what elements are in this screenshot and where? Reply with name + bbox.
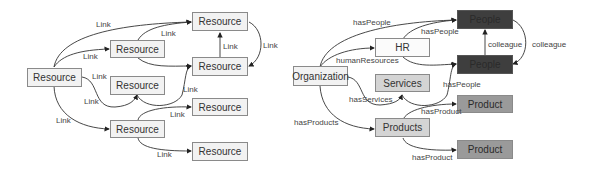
node-products[interactable]: Products — [375, 118, 430, 137]
node-services[interactable]: Services — [375, 74, 430, 92]
node-hr[interactable]: HR — [375, 38, 430, 57]
node-resource-rbr[interactable]: Resource — [192, 142, 248, 161]
edge-label-link: Link — [84, 97, 99, 106]
node-resource-rmr[interactable]: Resource — [192, 57, 248, 76]
edge-label-hasservices: hasServices — [349, 95, 393, 104]
node-organization[interactable]: Organization — [293, 66, 348, 86]
node-people-top[interactable]: People — [457, 10, 513, 29]
edge-label-link: Link — [83, 52, 98, 61]
edge-label-link: Link — [56, 116, 71, 125]
edge-label-humanresources: humanResources — [336, 56, 399, 65]
edge-label-hasproducts: hasProducts — [294, 118, 338, 127]
edge-r1-rmr — [138, 58, 191, 66]
edge-label-haspeople: hasPeople — [353, 18, 391, 27]
node-resource-rlr[interactable]: Resource — [192, 98, 248, 116]
edge-label-link: Link — [183, 85, 198, 94]
node-resource-rbm[interactable]: Resource — [110, 120, 165, 138]
edge-label-link: Link — [96, 20, 111, 29]
edge-label-hasproduct-bottom: hasProduct — [412, 153, 452, 162]
edge-hr-people2 — [403, 57, 456, 65]
edge-products-product2 — [403, 138, 456, 150]
edge-label-colleague-outer: colleague — [532, 40, 566, 49]
edge-label-colleague-inner: colleague — [488, 40, 522, 49]
edge-label-services-haspeople: hasPeople — [443, 80, 481, 89]
edge-label-link: Link — [263, 41, 278, 50]
node-product-bottom[interactable]: Product — [457, 140, 513, 159]
edge-label-hasproduct-top: hasProduct — [421, 107, 461, 116]
edge-label-link: Link — [92, 72, 107, 81]
edge-label-link: Link — [161, 29, 176, 38]
node-resource-r1[interactable]: Resource — [110, 40, 165, 58]
node-resource-rtop[interactable]: Resource — [192, 12, 248, 31]
node-product-top[interactable]: Product — [457, 95, 513, 113]
edge-label-link: Link — [157, 150, 172, 159]
edge-label-link: Link — [170, 110, 185, 119]
edge-label-hr-haspeople: hasPeople — [421, 27, 459, 36]
node-resource-root[interactable]: Resource — [27, 68, 82, 87]
node-resource-rcenter[interactable]: Resource — [110, 76, 165, 95]
edge-rtop-rmr — [249, 22, 261, 66]
edge-label-link: Link — [223, 42, 238, 51]
node-people-bottom[interactable]: People — [457, 55, 513, 74]
